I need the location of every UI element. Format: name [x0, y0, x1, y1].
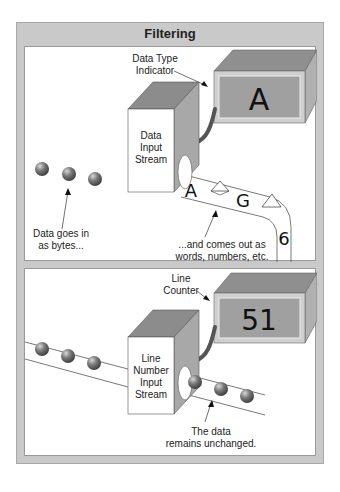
svg-text:Stream: Stream [135, 389, 167, 400]
output-token-6: 6 [278, 228, 289, 249]
svg-text:remains unchanged.: remains unchanged. [166, 438, 257, 449]
byte-ball-icon [214, 382, 228, 396]
data-type-indicator-box: A [214, 50, 317, 123]
indicator-label: Data Type [132, 53, 178, 64]
svg-text:Number: Number [133, 365, 169, 376]
line-number-panel: 51 Line Counter Line Number Input [24, 268, 316, 456]
byte-ball-icon [35, 162, 49, 176]
data-input-stream-box: Data Input Stream [128, 82, 199, 192]
diagram-title: Filtering [17, 23, 323, 45]
arrow-icon [203, 295, 210, 301]
byte-ball-icon [35, 342, 49, 356]
output-token-a: A [185, 180, 198, 201]
indicator-value: A [249, 82, 270, 117]
input-caption: Data goes in [33, 228, 89, 239]
byte-ball-icon [188, 375, 202, 389]
svg-text:as bytes...: as bytes... [38, 240, 84, 251]
filtering-panel: A Data Type Indicator Data Input [24, 46, 316, 261]
byte-ball-icon [88, 172, 102, 186]
svg-text:Counter: Counter [163, 285, 199, 296]
counter-value: 51 [241, 304, 277, 337]
counter-label: Line [172, 273, 191, 284]
indicator-label-2: Indicator [136, 65, 175, 76]
line-number-illustration: 51 Line Counter Line Number Input [25, 269, 317, 457]
arrow-icon [212, 210, 218, 217]
arrow-icon [65, 188, 71, 195]
byte-ball-icon [61, 349, 75, 363]
box-label: Data [140, 130, 162, 141]
output-token-g: G [236, 190, 250, 211]
box-label: Line [142, 353, 161, 364]
svg-text:Input: Input [140, 142, 162, 153]
byte-ball-icon [240, 389, 254, 403]
output-caption: The data [191, 426, 231, 437]
output-caption: ...and comes out as [178, 239, 265, 250]
line-counter-box: 51 [214, 273, 317, 343]
svg-text:Stream: Stream [135, 154, 167, 165]
byte-ball-icon [87, 356, 101, 370]
svg-text:words, numbers, etc.: words, numbers, etc. [175, 251, 269, 262]
byte-ball-icon [62, 167, 76, 181]
svg-text:Input: Input [140, 377, 162, 388]
filtering-illustration: A Data Type Indicator Data Input [25, 47, 317, 262]
diagram-frame: Filtering A Data Type [16, 22, 324, 464]
line-number-input-stream-box: Line Number Input Stream [128, 310, 199, 414]
